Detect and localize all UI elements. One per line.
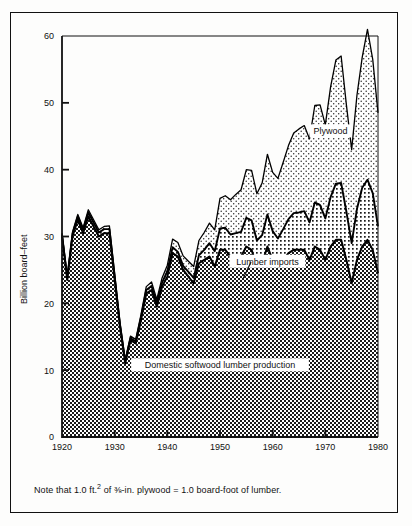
x-tick-label-1950: 1950: [210, 442, 230, 452]
figure-container: Billion board–feet 010203040506019201930…: [0, 0, 412, 526]
x-tick-label-1940: 1940: [157, 442, 177, 452]
y-tick-label-30: 30: [44, 232, 54, 242]
x-tick-label-1980: 1980: [368, 442, 388, 452]
y-tick-label-0: 0: [49, 432, 54, 442]
annotation-label-1: Lumber imports: [236, 257, 299, 267]
note-prefix: Note that 1.0 ft.: [34, 485, 97, 495]
x-tick-label-1920: 1920: [52, 442, 72, 452]
note-suffix: of ⅜-in. plywood = 1.0 board-foot of lum…: [101, 485, 281, 495]
y-tick-label-50: 50: [44, 98, 54, 108]
y-tick-label-10: 10: [44, 366, 54, 376]
x-tick-label-1960: 1960: [263, 442, 283, 452]
annotation-label-0: Plywood: [314, 126, 348, 136]
annotation-label-2: Domestic softwood lumber production: [145, 360, 296, 370]
x-tick-label-1970: 1970: [315, 442, 335, 452]
stacked-area-chart: 0102030405060192019301940195019601970198…: [0, 0, 412, 526]
x-tick-label-1930: 1930: [105, 442, 125, 452]
figure-note: Note that 1.0 ft.2 of ⅜-in. plywood = 1.…: [34, 483, 281, 495]
y-tick-label-40: 40: [44, 165, 54, 175]
y-tick-label-20: 20: [44, 299, 54, 309]
plot-area: 0102030405060192019301940195019601970198…: [44, 29, 388, 452]
y-tick-label-60: 60: [44, 31, 54, 41]
